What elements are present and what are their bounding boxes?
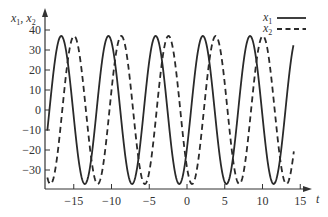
x-tick-label: −10 [102, 194, 121, 208]
y-tick-label: 0 [35, 103, 41, 117]
y-ticks: 403020100−10−20−30 [22, 23, 50, 177]
y-tick-label: 20 [29, 63, 41, 77]
legend: x1 x2 [262, 10, 306, 37]
series-x2-line [47, 36, 293, 184]
y-tick-label: 30 [29, 43, 41, 57]
x-tick-label: −5 [143, 194, 156, 208]
y-axis-arrow-icon [42, 8, 48, 17]
x-axis-arrow-icon [303, 186, 312, 192]
y-tick-label: −30 [22, 163, 41, 177]
y-tick-label: −10 [22, 123, 41, 137]
x-ticks: −15−10−5051015 [64, 184, 306, 208]
line-chart: 403020100−10−20−30 −15−10−5051015 x1, x2… [0, 0, 328, 217]
y-tick-label: 10 [29, 83, 41, 97]
x-axis-label: t [316, 192, 320, 206]
y-tick-label: −20 [22, 143, 41, 157]
x-tick-label: 10 [257, 194, 269, 208]
y-axis-label: x1, x2 [10, 11, 36, 27]
x-tick-label: −15 [64, 194, 83, 208]
x-tick-label: 5 [222, 194, 228, 208]
x-tick-label: 15 [294, 194, 306, 208]
x-tick-label: 0 [184, 194, 190, 208]
series-group [47, 36, 293, 184]
